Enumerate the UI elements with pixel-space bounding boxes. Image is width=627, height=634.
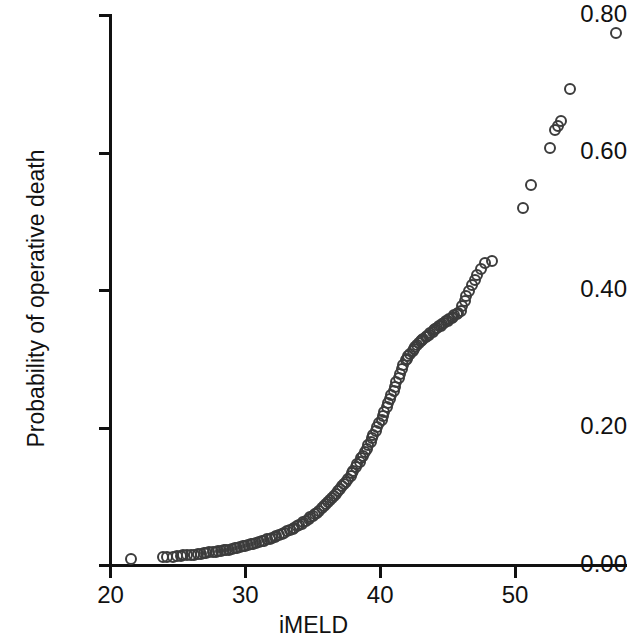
x-axis-title: iMELD [0, 612, 627, 634]
data-point [125, 553, 137, 565]
data-point [525, 179, 537, 191]
data-point [610, 27, 622, 39]
data-point [555, 115, 567, 127]
x-tick-label: 40 [340, 581, 420, 609]
y-tick-mark [99, 14, 109, 17]
x-tick-label: 20 [71, 581, 151, 609]
x-tick-mark [109, 567, 112, 578]
y-tick-mark [99, 152, 109, 155]
y-tick-label: 0.40 [535, 275, 627, 303]
x-tick-mark [244, 567, 247, 578]
y-axis-title: Probability of operative death [23, 49, 50, 549]
x-tick-label: 30 [205, 581, 285, 609]
x-tick-label: 50 [475, 581, 555, 609]
y-tick-mark [99, 427, 109, 430]
y-tick-label: 0.00 [535, 550, 627, 578]
y-tick-mark [99, 564, 109, 567]
plot-area: 0.000.200.400.600.8020304050 Probability… [0, 0, 627, 634]
data-point [486, 255, 498, 267]
y-tick-label: 0.20 [535, 412, 627, 440]
x-tick-mark [514, 567, 517, 578]
data-point [564, 83, 576, 95]
x-tick-mark [379, 567, 382, 578]
scatter-plot-figure: 0.000.200.400.600.8020304050 Probability… [0, 0, 627, 634]
data-point [517, 202, 529, 214]
y-tick-label: 0.80 [535, 0, 627, 28]
y-tick-mark [99, 289, 109, 292]
data-point [544, 142, 556, 154]
y-axis-line [109, 14, 112, 567]
